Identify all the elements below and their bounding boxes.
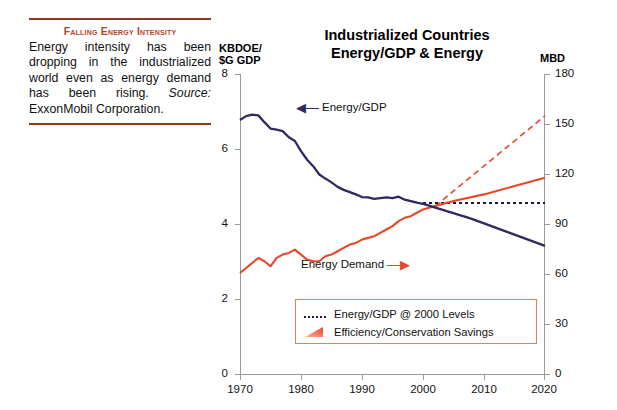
x-tick-1990 [362,375,363,380]
legend-item-savings: Efficiency/Conservation Savings [304,323,528,341]
arrow-right-icon: —▶ [387,259,410,270]
right-tick-90 [545,224,550,225]
x-axis-label-2010: 2010 [461,384,507,395]
right-axis-label-180: 180 [555,68,585,79]
right-tick-30 [545,324,550,325]
triangle-swatch-icon [304,326,326,338]
right-tick-0 [545,374,550,375]
legend-label-savings: Efficiency/Conservation Savings [334,326,494,338]
left-axis-label-8: 8 [198,68,228,79]
x-tick-2010 [484,375,485,380]
chart-title-line1: Industrialized Countries [278,26,536,44]
right-tick-60 [545,274,550,275]
chart-title: Industrialized Countries Energy/GDP & En… [278,26,536,62]
arrow-left-icon: ◀— [296,102,319,113]
chart-page: Falling Energy Intensity Energy intensit… [0,0,617,410]
right-axis-label-120: 120 [555,168,585,179]
caption-title: Falling Energy Intensity [29,25,211,37]
x-tick-1970 [240,375,241,380]
annotation-energy-gdp-label: Energy/GDP [322,101,387,113]
x-axis-label-2020: 2020 [521,384,567,395]
right-tick-180 [545,74,550,75]
chart-title-line2: Energy/GDP & Energy [278,44,536,62]
right-axis-unit-label: MBD [540,52,565,64]
x-axis-label-1980: 1980 [278,384,324,395]
dotted-line-swatch-icon [304,316,326,318]
x-tick-2020 [544,375,545,380]
left-axis-unit-label: KBDOE/ $G GDP [219,42,262,66]
left-axis-label-0: 0 [198,368,228,379]
caption-block: Falling Energy Intensity Energy intensit… [29,18,211,125]
right-axis-label-150: 150 [555,118,585,129]
x-axis-label-1990: 1990 [339,384,385,395]
x-axis-label-2000: 2000 [400,384,446,395]
left-axis-label-4: 4 [198,218,228,229]
caption-source-label: Source: [169,86,211,100]
x-axis-label-1970: 1970 [217,384,263,395]
caption-text-2: ExxonMobil Corporation. [29,102,164,116]
x-tick-2000 [423,375,424,380]
right-axis-label-60: 60 [555,268,585,279]
legend-label-reference: Energy/GDP @ 2000 Levels [334,308,475,320]
left-axis-label-6: 6 [198,143,228,154]
legend-item-reference: Energy/GDP @ 2000 Levels [304,305,528,323]
left-axis-unit-line2: $G GDP [219,54,262,66]
right-tick-120 [545,174,550,175]
annotation-energy-demand: Energy Demand —▶ [301,258,410,270]
x-tick-1980 [301,375,302,380]
caption-rule-bottom [29,123,211,125]
caption-body: Energy intensity has been dropping in th… [29,40,211,117]
right-tick-150 [545,124,550,125]
right-axis-label-90: 90 [555,218,585,229]
caption-rule-top [29,18,211,20]
annotation-energy-demand-label: Energy Demand [301,258,384,270]
chart-legend: Energy/GDP @ 2000 Levels Efficiency/Cons… [295,299,537,344]
right-axis-label-30: 30 [555,318,585,329]
left-axis-label-2: 2 [198,293,228,304]
annotation-energy-gdp: ◀— Energy/GDP [296,101,387,113]
left-axis-unit-line1: KBDOE/ [219,42,262,54]
right-axis-label-0: 0 [555,368,585,379]
